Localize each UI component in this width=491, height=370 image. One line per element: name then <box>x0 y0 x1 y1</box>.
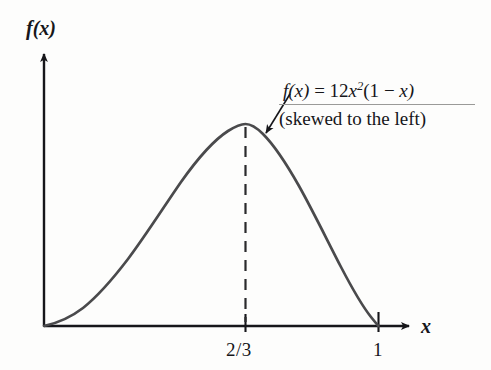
figure-container: f(x) x 2/3 1 f(x) = 12x2(1 − x) (skewed … <box>0 0 491 370</box>
x-tick-label-mode: 2/3 <box>226 340 252 359</box>
annotation-note: (skewed to the left) <box>279 108 481 130</box>
annotation-formula: f(x) = 12x2(1 − x) <box>279 80 481 102</box>
annotation-formula-equals: = <box>314 80 325 101</box>
annotation-divider <box>279 104 475 105</box>
annotation-formula-coefficient: 12 <box>330 80 349 101</box>
plot-canvas <box>0 0 491 370</box>
density-curve <box>44 124 379 326</box>
x-axis-label: x <box>421 316 431 336</box>
curve-annotation: f(x) = 12x2(1 − x) (skewed to the left) <box>279 80 481 130</box>
annotation-formula-minus: − <box>384 80 395 101</box>
annotation-formula-variable: x) <box>399 80 414 101</box>
x-tick-label-one: 1 <box>373 340 383 359</box>
annotation-formula-prefix: f(x) <box>283 80 309 101</box>
annotation-formula-base: x <box>349 80 357 101</box>
y-axis-label: f(x) <box>26 18 56 38</box>
annotation-formula-factor: (1 <box>363 80 379 101</box>
